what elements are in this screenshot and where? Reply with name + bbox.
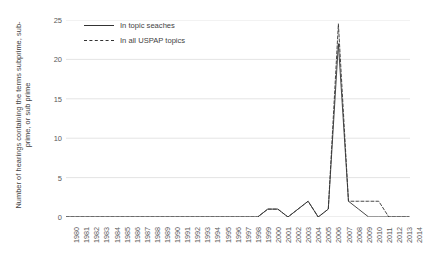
x-tick-label: 1999 [264, 227, 273, 243]
x-tick-label: 2008 [355, 227, 364, 243]
y-tick-label: 15 [44, 95, 62, 104]
x-tick-label: 1985 [123, 227, 132, 243]
legend-item: In topic seaches [84, 20, 234, 31]
x-tick-label: 1992 [193, 227, 202, 243]
y-tick-label: 20 [44, 55, 62, 64]
legend-solid-line-icon [84, 25, 114, 26]
x-tick-label: 2009 [365, 227, 374, 243]
x-tick-label: 1981 [82, 227, 91, 243]
x-tick-label: 1987 [143, 227, 152, 243]
x-tick-label: 1995 [224, 227, 233, 243]
y-tick-label: 10 [44, 134, 62, 143]
x-tick-label: 1989 [163, 227, 172, 243]
y-tick-label: 5 [44, 174, 62, 183]
y-tick-label: 0 [44, 213, 62, 222]
x-tick-label: 1983 [102, 227, 111, 243]
x-tick-label: 2010 [375, 227, 384, 243]
chart-legend: In topic seachesIn all USPAP topics [84, 20, 234, 50]
legend-item-label: In topic seaches [120, 21, 175, 30]
x-tick-label: 2004 [314, 227, 323, 243]
x-tick-label: 2005 [324, 227, 333, 243]
x-tick-label: 2007 [345, 227, 354, 243]
x-axis-ticks: 1980198119821983198419851986198719881989… [66, 219, 410, 265]
x-tick-label: 1982 [92, 227, 101, 243]
x-tick-label: 1988 [153, 227, 162, 243]
x-tick-label: 1986 [133, 227, 142, 243]
x-tick-label: 2014 [415, 227, 424, 243]
x-tick-label: 1993 [203, 227, 212, 243]
series-lines [66, 24, 409, 217]
x-tick-label: 1990 [173, 227, 182, 243]
x-tick-label: 2013 [405, 227, 414, 243]
x-tick-label: 2006 [334, 227, 343, 243]
x-tick-label: 2012 [395, 227, 404, 243]
y-tick-label: 25 [44, 16, 62, 25]
x-tick-label: 2011 [385, 228, 394, 243]
series-line-2 [66, 24, 409, 217]
y-axis-ticks: 0510152025 [40, 20, 62, 217]
x-tick-label: 1980 [72, 227, 81, 243]
x-tick-label: 2003 [304, 227, 313, 243]
x-tick-label: 1991 [183, 227, 192, 243]
x-tick-label: 1997 [244, 227, 253, 243]
x-tick-label: 2002 [294, 227, 303, 243]
x-tick-label: 2001 [284, 227, 293, 243]
legend-item: In all USPAP topics [84, 35, 234, 46]
x-tick-label: 1998 [254, 227, 263, 243]
legend-item-label: In all USPAP topics [120, 36, 185, 45]
y-axis-title-container: Number of hearings containing the terms … [0, 0, 40, 225]
x-tick-label: 1984 [113, 227, 122, 243]
series-line-1 [66, 44, 409, 217]
x-tick-label: 1996 [234, 227, 243, 243]
y-axis-title: Number of hearings containing the terms … [14, 12, 33, 218]
legend-dashed-line-icon [84, 40, 114, 41]
x-tick-label: 2000 [274, 227, 283, 243]
x-tick-label: 1994 [213, 227, 222, 243]
